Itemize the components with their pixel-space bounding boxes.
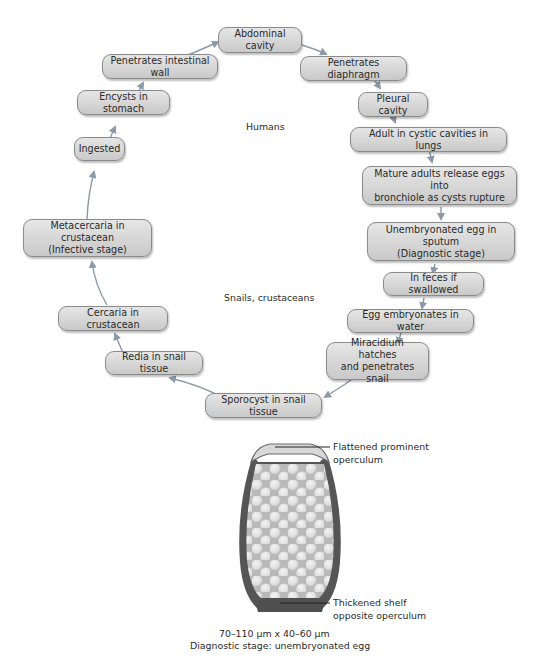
callout-shelf-line2: opposite operculum: [333, 610, 426, 622]
caption-size: 70–110 µm x 40–60 µm: [219, 628, 330, 640]
callout-operculum-line2: operculum: [333, 454, 383, 466]
callout-shelf-line1: Thickened shelf: [333, 597, 406, 609]
egg-illustration: [0, 0, 535, 661]
caption-stage: Diagnostic stage: unembryonated egg: [190, 640, 370, 652]
callout-operculum-line1: Flattened prominent: [333, 441, 429, 453]
